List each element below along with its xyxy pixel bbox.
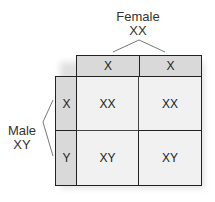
female-gamete-2: X xyxy=(139,55,202,77)
male-gamete-2: Y xyxy=(55,130,77,186)
punnett-square: X X X Y XX XX XY XY xyxy=(0,0,215,202)
offspring-cell: XX xyxy=(76,76,139,131)
offspring-cell: XY xyxy=(139,130,202,186)
male-gamete-1: X xyxy=(55,76,77,131)
offspring-cell: XY xyxy=(76,130,139,186)
offspring-cell: XX xyxy=(139,76,202,131)
female-gamete-1: X xyxy=(76,55,139,77)
